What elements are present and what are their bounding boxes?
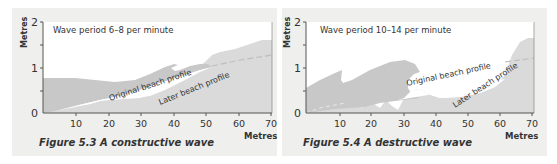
x-tick: 10 bbox=[70, 118, 82, 129]
x-tick: 20 bbox=[103, 118, 115, 129]
x-tick: 30 bbox=[398, 118, 410, 129]
y-tick-2: 2 bbox=[31, 16, 38, 29]
x-tick: 50 bbox=[462, 118, 474, 129]
figure-caption: Figure 5.3 A constructive wave bbox=[39, 137, 214, 148]
figure-caption: Figure 5.4 A destructive wave bbox=[303, 137, 472, 148]
x-tick: 40 bbox=[430, 118, 442, 129]
y-axis-label: Metres bbox=[283, 16, 292, 48]
x-tick: 60 bbox=[494, 118, 506, 129]
plot-constructive: 2 1 0 Metres 10 20 30 40 50 60 70 Metres… bbox=[20, 16, 277, 148]
x-axis-label: Metres bbox=[505, 131, 538, 141]
x-tick: 20 bbox=[365, 118, 377, 129]
x-tick: 40 bbox=[168, 118, 180, 129]
x-tick: 30 bbox=[135, 118, 147, 129]
figures-svg: 2 1 0 Metres 10 20 30 40 50 60 70 Metres… bbox=[0, 0, 557, 164]
y-tick-0: 0 bbox=[294, 107, 301, 120]
wave-period-annotation: Wave period 6–8 per minute bbox=[53, 25, 173, 35]
x-axis-label: Metres bbox=[244, 131, 277, 141]
wave-period-annotation: Wave period 10–14 per minute bbox=[320, 25, 451, 35]
y-tick-0: 0 bbox=[31, 107, 38, 120]
y-tick-1: 1 bbox=[31, 62, 38, 75]
x-tick: 60 bbox=[233, 118, 245, 129]
y-tick-2: 2 bbox=[294, 16, 301, 29]
x-tick: 10 bbox=[334, 118, 346, 129]
x-tick: 70 bbox=[526, 118, 538, 129]
y-tick-1: 1 bbox=[294, 62, 301, 75]
y-axis-label: Metres bbox=[20, 16, 29, 48]
x-tick: 70 bbox=[265, 118, 277, 129]
x-tick: 50 bbox=[200, 118, 212, 129]
